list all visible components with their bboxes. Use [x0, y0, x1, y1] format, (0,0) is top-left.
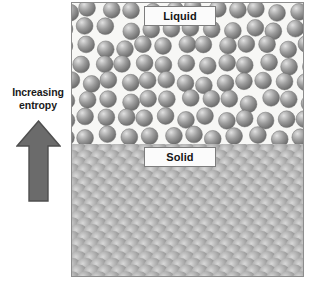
liquid-particle	[139, 72, 156, 89]
liquid-particle	[97, 18, 114, 35]
liquid-particle	[96, 56, 113, 73]
liquid-particle	[78, 36, 95, 53]
liquid-particle	[123, 94, 140, 111]
liquid-particle	[100, 72, 117, 89]
phase-label-solid: Solid	[144, 147, 216, 167]
liquid-particle	[76, 18, 93, 35]
up-arrow-icon	[16, 120, 61, 202]
entropy-annotation-line-2: entropy	[0, 99, 76, 112]
liquid-particle	[77, 108, 94, 125]
liquid-particle	[178, 111, 195, 128]
phase-figure-frame: Liquid Solid	[71, 2, 304, 277]
liquid-particle	[166, 127, 183, 144]
liquid-particle	[287, 20, 303, 37]
liquid-particle	[83, 76, 100, 93]
liquid-particle	[199, 57, 216, 74]
liquid-particle	[269, 5, 286, 22]
liquid-particle	[250, 127, 267, 144]
liquid-particle	[263, 89, 280, 106]
liquid-particle	[217, 75, 234, 92]
liquid-particle	[123, 3, 140, 19]
liquid-particle	[79, 91, 96, 108]
phase-label-liquid: Liquid	[144, 6, 216, 26]
liquid-particle	[99, 126, 116, 143]
liquid-particle	[257, 112, 274, 129]
entropy-annotation-line-1: Increasing	[0, 86, 76, 99]
liquid-particle	[247, 19, 264, 36]
liquid-particle	[236, 57, 253, 74]
liquid-particle	[155, 57, 172, 74]
liquid-particle	[203, 90, 220, 107]
liquid-particle	[224, 22, 241, 39]
phase-label-liquid-text: Liquid	[145, 10, 215, 22]
liquid-particle	[98, 109, 115, 126]
liquid-particle	[280, 41, 297, 58]
liquid-particle	[140, 90, 157, 107]
liquid-particle	[230, 3, 247, 18]
entropy-annotation-label: Increasing entropy	[0, 86, 76, 111]
liquid-particle	[255, 72, 272, 89]
liquid-particle	[158, 71, 175, 88]
liquid-particle	[114, 56, 131, 73]
liquid-particle	[136, 55, 153, 72]
liquid-particle	[221, 90, 238, 107]
diagram-canvas: Increasing entropy	[0, 0, 312, 290]
liquid-particle	[238, 36, 255, 53]
liquid-particle	[197, 108, 214, 125]
liquid-particle	[77, 130, 94, 144]
liquid-particle	[73, 56, 90, 73]
liquid-particle	[261, 54, 278, 71]
phase-label-solid-text: Solid	[145, 151, 215, 163]
liquid-particle	[178, 55, 195, 72]
liquid-particle	[134, 36, 151, 53]
liquid-particle	[100, 91, 117, 108]
liquid-particle	[117, 41, 134, 58]
liquid-particle	[182, 90, 199, 107]
liquid-particle	[97, 41, 114, 58]
liquid-particle	[220, 37, 237, 54]
liquid-particle	[103, 3, 120, 18]
liquid-particle	[122, 74, 139, 91]
liquid-particle	[195, 36, 212, 53]
liquid-particle	[121, 129, 138, 144]
liquid-particle	[219, 54, 236, 71]
liquid-particle	[278, 111, 295, 128]
liquid-particle	[226, 128, 243, 144]
liquid-particle	[141, 128, 158, 144]
liquid-particle	[186, 126, 203, 143]
liquid-particle	[136, 110, 153, 127]
liquid-particle	[155, 38, 172, 55]
liquid-particle	[281, 58, 298, 75]
liquid-particle	[218, 112, 235, 129]
liquid-particle	[123, 23, 140, 40]
liquid-particle	[236, 73, 253, 90]
liquid-particle	[280, 91, 297, 108]
liquid-particle	[179, 36, 196, 53]
liquid-particle	[240, 96, 257, 113]
liquid-particle	[158, 91, 175, 108]
liquid-particle	[157, 108, 174, 125]
liquid-particle	[259, 36, 276, 53]
liquid-particle	[276, 73, 293, 90]
liquid-particle	[247, 3, 264, 17]
liquid-particle	[236, 110, 253, 127]
liquid-particle	[177, 75, 194, 92]
liquid-particle	[118, 109, 135, 126]
